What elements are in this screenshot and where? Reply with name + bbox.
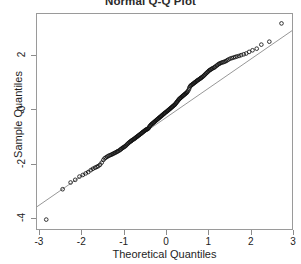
- x-tick-mark: [208, 230, 209, 235]
- y-tick-mark: [31, 55, 36, 56]
- x-tick-label: 0: [154, 236, 178, 247]
- x-axis-label: Theoretical Quantiles: [36, 248, 293, 261]
- x-tick-label: -3: [27, 236, 51, 247]
- data-point: [61, 187, 65, 191]
- x-tick-label: -2: [69, 236, 93, 247]
- data-point: [280, 22, 284, 26]
- data-point: [251, 48, 255, 52]
- data-point: [267, 40, 271, 44]
- y-tick-mark: [31, 218, 36, 219]
- x-tick-label: 3: [281, 236, 301, 247]
- x-tick-mark: [124, 230, 125, 235]
- data-point: [255, 47, 259, 51]
- y-axis-label: Sample Quantiles: [12, 35, 25, 195]
- x-tick-mark: [166, 230, 167, 235]
- scatter-points-layer: [37, 14, 292, 229]
- x-tick-label: -1: [112, 236, 136, 247]
- y-tick-label: -4: [16, 209, 27, 225]
- x-tick-mark: [293, 230, 294, 235]
- x-tick-label: 2: [239, 236, 263, 247]
- y-tick-mark: [31, 109, 36, 110]
- x-tick-mark: [39, 230, 40, 235]
- x-tick-mark: [81, 230, 82, 235]
- data-point: [73, 178, 77, 182]
- data-point: [69, 181, 73, 185]
- page-title: Normal Q-Q Plot: [0, 0, 301, 7]
- y-tick-mark: [31, 164, 36, 165]
- x-tick-mark: [251, 230, 252, 235]
- qq-plot-screenshot: Normal Q-Q Plot -3-2-10123 20-2-4 Theore…: [0, 0, 301, 264]
- plot-panel: [36, 13, 293, 230]
- data-point: [44, 218, 48, 222]
- data-point: [259, 43, 263, 47]
- x-tick-label: 1: [196, 236, 220, 247]
